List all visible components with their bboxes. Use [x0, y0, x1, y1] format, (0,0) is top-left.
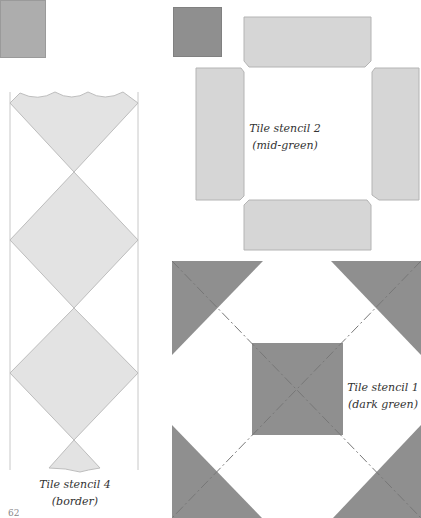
stencil-4-subtitle: (border)	[30, 493, 120, 510]
stencil-drawings	[0, 0, 421, 518]
stencil-4-title: Tile stencil 4	[30, 476, 120, 493]
stencil-2-subtitle: (mid-green)	[230, 137, 340, 154]
stencil-1-subtitle: (dark green)	[345, 396, 421, 413]
stencil-1-title: Tile stencil 1	[345, 379, 421, 396]
stencil-2-title: Tile stencil 2	[230, 120, 340, 137]
stencil-4-caption: Tile stencil 4 (border)	[30, 476, 120, 510]
stencil-4-border	[10, 92, 138, 472]
page-number: 62	[8, 508, 19, 518]
stencil-2-caption: Tile stencil 2 (mid-green)	[230, 120, 340, 154]
stencil-1-caption: Tile stencil 1 (dark green)	[345, 379, 421, 413]
